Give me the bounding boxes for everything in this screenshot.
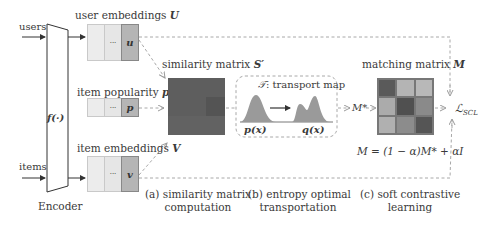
- caption-a: (a) similarity matrix computation: [143, 188, 253, 214]
- item-popularity-block: ··· p: [87, 98, 139, 117]
- item-embedding-block: ··· v: [87, 156, 139, 192]
- item-embedding-cell-v: v: [121, 156, 139, 192]
- matching-matrix: [377, 78, 434, 135]
- encoder-function-label: f(·): [47, 113, 64, 123]
- caption-c: (c) soft contrastive learning: [360, 188, 460, 214]
- encoder-function-text: f(·): [47, 112, 64, 123]
- similarity-row-light: [168, 116, 225, 135]
- target-distribution-q: [292, 96, 330, 122]
- popularity-cell-p: p: [121, 98, 139, 117]
- similarity-matrix-label: similarity matrix S′: [162, 59, 264, 70]
- source-distribution-label: p(x): [244, 125, 266, 135]
- similarity-cell-dark: [206, 97, 225, 116]
- similarity-matrix: [168, 78, 225, 135]
- popularity-cell-1: [87, 98, 105, 117]
- item-popularity-label: item popularity p: [77, 87, 169, 98]
- matching-formula: M = (1 − α)M* + αI: [357, 146, 463, 157]
- matching-cell-2-1: [396, 116, 414, 134]
- items-label: items: [19, 162, 47, 172]
- caption-b-line2: transportation: [248, 201, 348, 214]
- transport-symbol: 𝒯: [258, 79, 266, 90]
- caption-b: (b) entropy optimal transportation: [248, 188, 348, 214]
- user-embeddings-label: user embeddings U: [75, 10, 179, 21]
- item-embedding-cell-1: [87, 156, 105, 192]
- caption-b-line1: (b) entropy optimal: [248, 188, 348, 201]
- encoder-shape: [47, 24, 68, 192]
- transport-map-title: 𝒯: transport map: [258, 80, 345, 90]
- popularity-cell-ellipsis: ···: [104, 98, 122, 117]
- encoder-caption: Encoder: [38, 201, 83, 212]
- matching-cell-2-2: [415, 116, 433, 134]
- matching-cell-2-0: [378, 116, 396, 134]
- user-embeddings-text: user embeddings: [75, 9, 170, 21]
- matching-cell-1-2: [415, 97, 433, 115]
- matching-cell-1-1: [396, 97, 414, 115]
- m-star-label: M*: [352, 103, 367, 113]
- user-embedding-block: ··· u: [87, 24, 139, 61]
- item-embeddings-symbol: V: [172, 142, 180, 154]
- target-distribution-label: q(x): [302, 125, 324, 135]
- item-embedding-cell-ellipsis: ···: [104, 156, 122, 192]
- item-embeddings-label: item embeddings V: [77, 143, 180, 154]
- users-label: users: [19, 22, 46, 32]
- loss-symbol: ℒ: [455, 102, 463, 115]
- user-embeddings-symbol: U: [170, 9, 179, 21]
- loss-subscript: SCL: [463, 109, 478, 117]
- user-embedding-cell-u: u: [121, 24, 139, 61]
- matching-cell-0-1: [396, 79, 414, 97]
- matching-cell-0-2: [415, 79, 433, 97]
- item-popularity-text: item popularity: [77, 86, 162, 98]
- matching-matrix-symbol: M: [453, 58, 465, 70]
- matching-cell-0-0: [378, 79, 396, 97]
- item-embeddings-text: item embeddings: [77, 142, 172, 154]
- similarity-matrix-symbol: S′: [254, 58, 264, 70]
- caption-a-line2: computation: [143, 201, 253, 214]
- loss-label: ℒSCL: [455, 103, 478, 117]
- caption-c-line2: learning: [360, 201, 460, 214]
- matching-matrix-label: matching matrix M: [362, 59, 465, 70]
- caption-a-line1: (a) similarity matrix: [143, 188, 253, 201]
- transport-title-text: : transport map: [266, 79, 345, 90]
- matching-cell-1-0: [378, 97, 396, 115]
- similarity-matrix-text: similarity matrix: [162, 58, 254, 70]
- matching-matrix-text: matching matrix: [362, 58, 453, 70]
- caption-c-line1: (c) soft contrastive: [360, 188, 460, 201]
- user-embedding-cell-ellipsis: ···: [104, 24, 122, 61]
- user-embedding-cell-1: [87, 24, 105, 61]
- distribution-curves: [240, 95, 333, 122]
